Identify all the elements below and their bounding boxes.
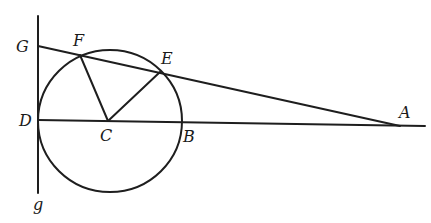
radius-ce xyxy=(108,72,160,121)
radius-cf xyxy=(80,55,108,121)
label-b-point: B xyxy=(182,127,195,146)
geometry-diagram: G F E D C B A g xyxy=(0,0,431,223)
label-g-point: G xyxy=(16,37,29,56)
label-c-point: C xyxy=(100,126,112,145)
label-g-lower: g xyxy=(33,195,43,214)
line-da xyxy=(38,120,425,126)
label-d-point: D xyxy=(18,111,32,130)
label-a-point: A xyxy=(397,103,411,122)
label-e-point: E xyxy=(160,49,173,68)
label-f-point: F xyxy=(72,31,85,50)
